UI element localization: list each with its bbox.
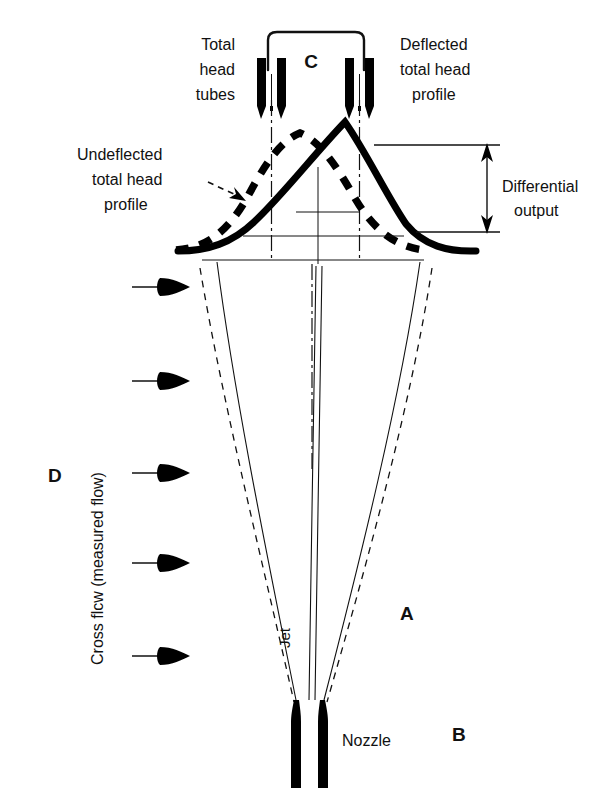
- figure-canvas: C: [0, 0, 601, 794]
- cross-flow-arrow-2: [132, 372, 190, 390]
- label-undeflected-profile: Undeflected total head profile: [77, 146, 162, 213]
- cross-flow-arrow-5: [132, 647, 190, 665]
- cross-flow-arrows: [132, 278, 190, 665]
- undeflected-profile-line3: profile: [104, 196, 148, 213]
- nozzle-label: Nozzle: [342, 732, 391, 749]
- undeflected-leader-arrow: [208, 182, 246, 201]
- cross-flow-label: Cross flcw (measured flow): [89, 472, 106, 665]
- differential-output-dimension: [374, 143, 500, 234]
- undeflected-profile-line2: total head: [92, 171, 162, 188]
- differential-output-line1: Differential: [502, 178, 578, 195]
- label-differential-output: Differential output: [502, 178, 578, 219]
- nozzle: [291, 700, 328, 788]
- label-deflected-profile: Deflected total head profile: [400, 36, 470, 103]
- label-total-head-tubes: Total head tubes: [196, 36, 235, 103]
- deflected-profile-line1: Deflected: [400, 36, 468, 53]
- differential-output-line2: output: [514, 202, 559, 219]
- callout-label-b: B: [452, 724, 466, 745]
- deflected-profile-line3: profile: [412, 86, 456, 103]
- cross-flow-arrow-4: [132, 554, 190, 572]
- flow-sensor-diagram: C: [0, 0, 601, 794]
- jet-label: Jet: [276, 627, 293, 648]
- undeflected-profile-line1: Undeflected: [77, 146, 162, 163]
- callout-label-a: A: [400, 603, 414, 624]
- total-head-tubes-line1: Total: [201, 36, 235, 53]
- total-head-tubes-line3: tubes: [196, 86, 235, 103]
- cross-flow-arrow-3: [132, 464, 190, 482]
- cross-flow-arrow-1: [132, 278, 190, 296]
- reference-lines: [202, 167, 424, 264]
- jet-cone-deflected: [217, 262, 420, 700]
- callout-label-d: D: [48, 465, 62, 486]
- deflected-profile-line2: total head: [400, 61, 470, 78]
- total-head-tubes-line2: head: [199, 61, 235, 78]
- callout-label-c: C: [304, 51, 318, 72]
